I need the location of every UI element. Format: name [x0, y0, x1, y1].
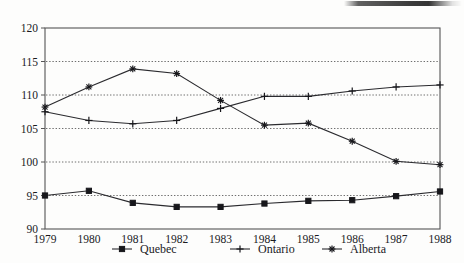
legend-label-ontario: Ontario	[258, 242, 295, 256]
data-point-quebec-1984	[262, 201, 267, 206]
data-point-quebec-1981	[130, 200, 135, 205]
x-axis-label-group: 1979198019811982198319841985198619871988	[34, 233, 452, 245]
data-series-group	[41, 65, 443, 209]
series-ontario	[41, 81, 443, 127]
x-tick-label-1979: 1979	[34, 233, 57, 245]
data-point-ontario-1980	[85, 117, 92, 124]
data-point-quebec-1986	[350, 198, 355, 203]
data-point-quebec-1988	[437, 189, 442, 194]
y-tick-label-100: 100	[21, 156, 39, 168]
line-chart-figure: 9095100105110115120 19791980198119821983…	[0, 0, 464, 263]
data-point-quebec-1979	[42, 193, 47, 198]
series-line-alberta	[45, 69, 440, 165]
data-point-alberta-1982	[173, 70, 180, 77]
data-point-alberta-1987	[393, 158, 400, 165]
plus-marker-icon	[236, 245, 243, 252]
chart-plot-area: 9095100105110115120 19791980198119821983…	[0, 0, 464, 263]
data-point-alberta-1980	[85, 84, 92, 91]
data-point-ontario-1981	[129, 120, 136, 127]
data-point-alberta-1979	[42, 104, 49, 111]
y-tick-label-95: 95	[27, 190, 39, 202]
data-point-quebec-1987	[394, 194, 399, 199]
legend-label-quebec: Quebec	[140, 242, 177, 256]
data-point-alberta-1986	[349, 138, 356, 145]
data-point-ontario-1988	[436, 81, 443, 88]
data-point-alberta-1988	[437, 161, 444, 168]
data-point-quebec-1982	[174, 204, 179, 209]
y-axis-tick-group	[41, 28, 45, 229]
data-point-ontario-1986	[349, 87, 356, 94]
data-point-ontario-1985	[305, 93, 312, 100]
series-alberta	[42, 65, 444, 168]
data-point-alberta-1985	[305, 120, 312, 127]
data-point-alberta-1983	[217, 97, 224, 104]
x-tick-label-1983: 1983	[209, 233, 232, 245]
data-point-ontario-1984	[261, 93, 268, 100]
square-marker-icon	[119, 246, 124, 251]
series-line-ontario	[45, 85, 440, 124]
data-point-ontario-1983	[217, 105, 224, 112]
data-point-alberta-1984	[261, 122, 268, 129]
data-point-quebec-1985	[306, 198, 311, 203]
series-quebec	[42, 188, 442, 209]
legend-label-alberta: Alberta	[350, 242, 387, 256]
x-tick-label-1985: 1985	[297, 233, 320, 245]
x-tick-label-1980: 1980	[77, 233, 100, 245]
data-point-ontario-1982	[173, 117, 180, 124]
data-point-ontario-1987	[393, 83, 400, 90]
y-tick-label-120: 120	[21, 22, 39, 34]
y-axis-label-group: 9095100105110115120	[21, 22, 39, 235]
x-tick-label-1987: 1987	[385, 233, 408, 245]
data-point-alberta-1981	[129, 65, 136, 72]
y-tick-label-110: 110	[21, 89, 38, 101]
asterisk-marker-icon	[329, 246, 336, 253]
x-tick-label-1988: 1988	[429, 233, 452, 245]
y-tick-label-105: 105	[21, 123, 39, 135]
data-point-quebec-1983	[218, 204, 223, 209]
gridline-group	[46, 62, 439, 196]
series-line-quebec	[45, 191, 440, 207]
y-tick-label-115: 115	[21, 56, 38, 68]
legend-entry-alberta[interactable]: Alberta	[322, 242, 387, 256]
legend-entry-ontario[interactable]: Ontario	[230, 242, 295, 256]
data-point-quebec-1980	[86, 188, 91, 193]
